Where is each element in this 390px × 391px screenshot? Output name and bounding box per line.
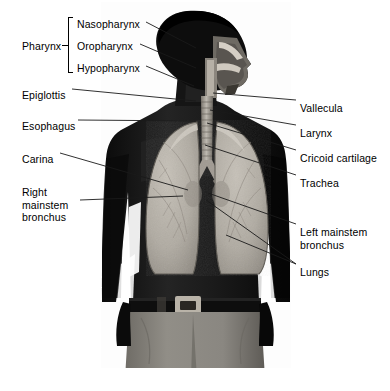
label-trachea: Trachea [300,177,339,190]
bracket-top-tick [68,17,73,18]
bracket-bottom-tick [68,72,73,73]
label-hypopharynx: Hypopharynx [77,62,140,75]
trousers [116,302,274,379]
bracket-spine [68,17,69,73]
anatomy-photograph [101,2,291,379]
label-vallecula: Vallecula [300,102,343,115]
label-right-mainstem-bronchus: Right mainstem bronchus [22,186,68,224]
label-oropharynx: Oropharynx [77,40,133,53]
label-epiglottis: Epiglottis [22,89,66,102]
label-esophagus: Esophagus [22,120,75,133]
label-left-mainstem-bronchus: Left mainstem bronchus [300,226,367,251]
airway-anatomy-figure: PharynxNasopharynxOropharynxHypopharynxE… [0,0,390,391]
lungs [146,120,271,276]
bracket-stem [62,45,68,46]
pharynx-bracket [68,17,74,73]
label-lungs: Lungs [300,266,329,279]
label-nasopharynx: Nasopharynx [77,18,140,31]
label-pharynx: Pharynx [22,40,61,53]
label-cricoid-cartilage: Cricoid cartilage [300,152,377,165]
label-larynx: Larynx [300,127,332,140]
label-carina: Carina [22,153,54,166]
